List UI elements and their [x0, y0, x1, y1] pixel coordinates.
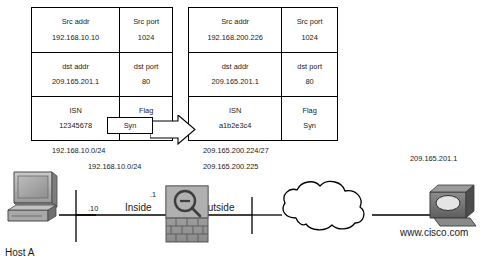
field-key: Src port: [297, 18, 323, 26]
field-key: ISN: [229, 107, 241, 115]
table-row: Src addr 192.168.10.10 Src port 1024: [32, 8, 172, 52]
table-row: Src addr 192.168.200.226 Src port 1024: [189, 8, 337, 52]
cell-dst-addr: dst addr 209.165.201.1: [189, 53, 282, 96]
desktop-computer-icon: [8, 172, 57, 221]
field-key: Src addr: [221, 18, 249, 26]
cell-src-addr: Src addr 192.168.200.226: [189, 8, 282, 52]
cell-dst-addr: dst addr 209.165.201.1: [32, 53, 120, 96]
field-value: a1b2e3c4: [219, 122, 251, 130]
field-key: dst port: [134, 63, 159, 71]
cell-flag: Flag Syn: [282, 97, 337, 140]
translation-arrow-icon: [150, 115, 196, 145]
field-value: 80: [142, 78, 150, 86]
field-value: 209.165.201.1: [52, 78, 99, 86]
table-row: dst addr 209.165.201.1 dst port 80: [189, 52, 337, 96]
network-cloud-icon: [283, 181, 364, 229]
field-key: Flag: [139, 107, 153, 115]
field-value: 192.168.10.10: [52, 34, 99, 42]
link-lines: [59, 190, 430, 242]
field-key: Flag: [302, 107, 316, 115]
field-value: 1024: [301, 34, 317, 42]
field-key: dst port: [297, 63, 322, 71]
syn-flag-highlight-box: Syn: [107, 117, 153, 134]
cell-src-port: Src port 1024: [282, 8, 337, 52]
syn-flag-label: Syn: [124, 121, 137, 130]
table-row: dst addr 209.165.201.1 dst port 80: [32, 52, 172, 96]
field-value: 12345678: [59, 122, 92, 130]
firewall-brick-wall-icon: [166, 186, 208, 242]
field-value: 1024: [138, 34, 154, 42]
network-topology-graphic: [0, 150, 492, 268]
field-value: 209.165.201.1: [211, 78, 258, 86]
server-icon: [430, 185, 476, 226]
table-row: ISN a1b2e3c4 Flag Syn: [189, 96, 337, 140]
cell-dst-port: dst port 80: [120, 53, 172, 96]
cell-isn: ISN a1b2e3c4: [189, 97, 282, 140]
field-value: 80: [306, 78, 314, 86]
cell-src-addr: Src addr 192.168.10.10: [32, 8, 120, 52]
field-key: dst addr: [222, 63, 249, 71]
field-key: Src addr: [62, 18, 90, 26]
field-key: ISN: [69, 107, 81, 115]
field-key: dst addr: [62, 63, 89, 71]
field-key: Src port: [133, 18, 159, 26]
cell-src-port: Src port 1024: [120, 8, 172, 52]
field-value: 192.168.200.226: [207, 34, 262, 42]
cell-dst-port: dst port 80: [282, 53, 337, 96]
diagram-canvas: Src addr 192.168.10.10 Src port 1024 dst…: [0, 0, 492, 268]
packet-table-post-translation: Src addr 192.168.200.226 Src port 1024 d…: [188, 7, 338, 141]
field-value: Syn: [303, 122, 316, 130]
